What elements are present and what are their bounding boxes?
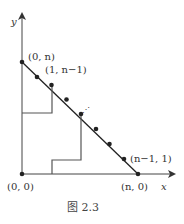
ellipsis-dots: ⋰ [82, 105, 90, 114]
point [94, 127, 99, 132]
point [64, 97, 69, 102]
point [107, 142, 112, 147]
point-origin [20, 172, 25, 177]
label-1-n-1: (1, n−1) [45, 64, 87, 75]
point-1-n-1 [35, 75, 40, 80]
staircase-lower [52, 114, 81, 174]
point-0-n [20, 60, 25, 65]
figure-caption: 图 2.3 [67, 201, 99, 214]
y-axis-label: y [10, 16, 17, 27]
point-n-0 [136, 172, 141, 177]
label-origin: (0, 0) [7, 181, 34, 192]
diagonal-line [22, 62, 138, 174]
label-n-1-1: (n−1, 1) [130, 153, 172, 164]
staircase-upper [22, 84, 52, 113]
point-n-1-1 [122, 157, 127, 162]
x-axis-label: x [161, 181, 167, 192]
lattice-path-diagram: y x (0, n) (1, n−1) (n−1, 1) (0, 0) (n, … [0, 0, 184, 224]
point [49, 83, 54, 88]
label-n-0: (n, 0) [121, 181, 148, 192]
label-0-n: (0, n) [28, 51, 55, 62]
